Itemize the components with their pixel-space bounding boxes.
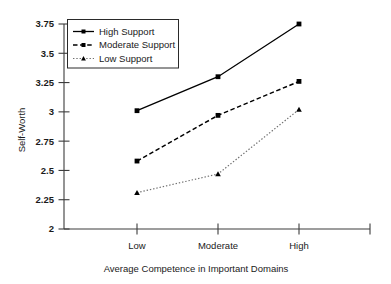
- data-series: [134, 107, 302, 195]
- y-axis-title: Self-Worth: [16, 108, 27, 153]
- x-axis-category-label: Moderate: [198, 240, 238, 251]
- data-point-marker: [296, 107, 302, 112]
- line-chart: 22.252.52.7533.253.53.75 LowModerateHigh…: [0, 0, 391, 284]
- series-line: [137, 81, 299, 161]
- data-point-marker: [216, 74, 221, 79]
- y-axis-tick-label: 2: [49, 223, 54, 234]
- x-axis-category-label: High: [289, 240, 309, 251]
- x-axis-category-label: Low: [128, 240, 146, 251]
- series-line: [137, 110, 299, 193]
- data-point-marker: [135, 159, 140, 164]
- y-axis-tick-label: 2.25: [36, 194, 55, 205]
- x-axis-tick-group: LowModerateHigh: [128, 224, 308, 252]
- y-axis-tick-label: 3.5: [41, 48, 55, 59]
- data-point-marker: [216, 113, 221, 118]
- x-axis-title: Average Competence in Important Domains: [104, 263, 289, 274]
- y-axis-tick-label: 2.75: [36, 136, 55, 147]
- data-point-marker: [135, 108, 140, 113]
- y-axis-tick-label: 3: [49, 106, 54, 117]
- data-series: [135, 79, 302, 163]
- legend-label: Moderate Support: [99, 39, 175, 50]
- chart-container: 22.252.52.7533.253.53.75 LowModerateHigh…: [0, 0, 391, 284]
- data-point-marker: [134, 190, 140, 195]
- legend-label: Low Support: [99, 53, 153, 64]
- legend-label: High Support: [99, 26, 155, 37]
- data-point-marker: [82, 43, 86, 47]
- data-point-marker: [82, 30, 86, 34]
- y-axis-tick-label: 3.75: [36, 18, 55, 29]
- y-axis-tick-label: 3.25: [36, 77, 55, 88]
- y-axis-tick-label: 2.5: [41, 165, 55, 176]
- data-point-marker: [297, 79, 302, 84]
- data-point-marker: [297, 22, 302, 27]
